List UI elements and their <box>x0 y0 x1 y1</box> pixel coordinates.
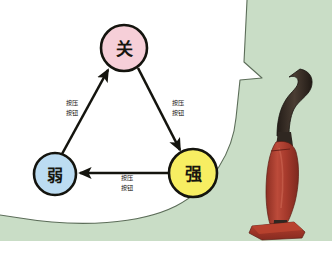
edge-weak-to-off: 按压 按钮 <box>62 70 108 154</box>
state-node-weak-label: 弱 <box>47 166 63 185</box>
state-diagram-layer: 按压 按钮 按压 按钮 按压 按钮 关 弱 强 <box>0 0 332 255</box>
state-node-strong-label: 强 <box>185 164 202 184</box>
edge-strong-to-weak-label-line1: 按压 <box>121 174 133 182</box>
edge-weak-to-off-label-line1: 按压 <box>66 99 78 107</box>
state-node-strong[interactable]: 强 <box>169 149 217 197</box>
edge-off-to-strong: 按压 按钮 <box>138 68 184 150</box>
edge-strong-to-weak-label-line2: 按钮 <box>121 184 133 192</box>
edge-off-to-strong-label-line1: 按压 <box>172 99 184 107</box>
edge-weak-to-off-label-line2: 按钮 <box>66 109 78 117</box>
edge-off-to-strong-label-line2: 按钮 <box>172 109 184 117</box>
diagram-scene: 按压 按钮 按压 按钮 按压 按钮 关 弱 强 <box>0 0 332 255</box>
state-node-off[interactable]: 关 <box>101 25 147 71</box>
state-node-off-label: 关 <box>116 39 133 59</box>
state-node-weak[interactable]: 弱 <box>34 153 76 195</box>
edge-strong-to-weak: 按压 按钮 <box>80 173 168 192</box>
